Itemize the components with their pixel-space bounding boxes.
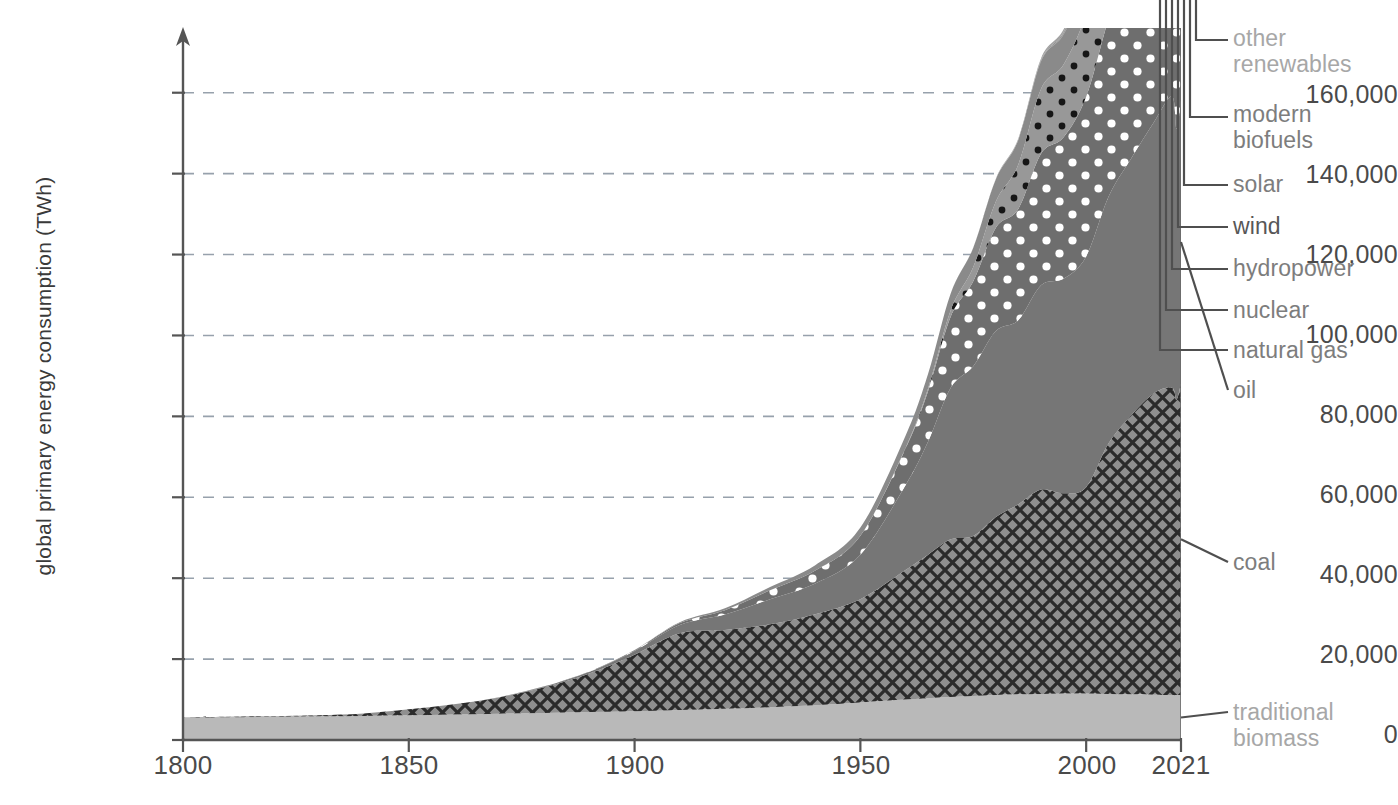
- callout-modern-biofuels: modern biofuels: [1233, 102, 1313, 154]
- x-tick-1950: 1950: [831, 750, 890, 781]
- plot-area: [0, 0, 1398, 805]
- callout-wind: wind: [1233, 214, 1281, 240]
- callout-other-renewables: other renewables: [1233, 26, 1352, 78]
- x-tick-2021: 2021: [1151, 750, 1210, 781]
- callout-oil: oil: [1233, 378, 1256, 404]
- x-tick-1800: 1800: [153, 750, 212, 781]
- stacked-areas: [183, 0, 1181, 740]
- callout-hydropower: hydropower: [1233, 256, 1354, 282]
- callout-natural-gas: natural gas: [1233, 338, 1348, 364]
- callout-coal: coal: [1233, 550, 1276, 576]
- callout-nuclear: nuclear: [1233, 298, 1309, 324]
- leader-traditional-biomass: [1181, 712, 1228, 718]
- callout-traditional-biomass: traditional biomass: [1233, 700, 1334, 752]
- energy-consumption-chart: global primary energy consumption (TWh): [0, 0, 1398, 805]
- leader-oil: [1181, 242, 1228, 390]
- y-tick-80000: 80,000: [1238, 400, 1398, 429]
- x-tick-1900: 1900: [605, 750, 664, 781]
- x-tick-2000: 2000: [1057, 750, 1116, 781]
- y-tick-60000: 60,000: [1238, 480, 1398, 509]
- x-tick-1850: 1850: [379, 750, 438, 781]
- leader-coal: [1181, 539, 1228, 562]
- y-tick-20000: 20,000: [1238, 640, 1398, 669]
- callout-solar: solar: [1233, 172, 1283, 198]
